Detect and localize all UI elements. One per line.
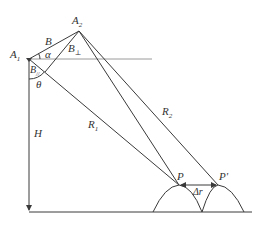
- label-b-perp: B⊥: [68, 42, 81, 57]
- r1-line: [29, 59, 179, 185]
- label-r2: R2: [161, 105, 173, 120]
- label-a2: A2: [71, 14, 83, 29]
- r2-line: [79, 31, 218, 185]
- label-h: H: [33, 127, 43, 139]
- label-delta-r: Δr: [192, 186, 203, 197]
- label-r1: R1: [87, 118, 98, 133]
- alpha-arc: [39, 54, 40, 59]
- insar-geometry-diagram: A2 A1 B α B⊥ B// θ H R1 R2 P P' Δr: [0, 0, 264, 227]
- label-p: P: [176, 170, 184, 182]
- label-theta: θ: [36, 78, 42, 90]
- label-b-par: B//: [30, 64, 41, 77]
- label-b: B: [45, 35, 52, 47]
- label-a1: A1: [9, 48, 20, 63]
- label-alpha: α: [45, 48, 51, 60]
- terrain-bump-2: [202, 185, 244, 212]
- label-p-prime: P': [218, 170, 229, 182]
